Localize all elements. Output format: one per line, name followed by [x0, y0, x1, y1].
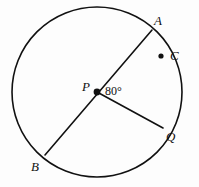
geometry-figure: A C P Q B 80°	[0, 0, 199, 187]
center-point-dot	[94, 89, 101, 96]
point-label-b: B	[31, 160, 39, 173]
point-label-q: Q	[166, 130, 175, 143]
point-label-p: P	[82, 80, 90, 93]
point-label-c: C	[170, 49, 179, 62]
angle-measure-label: 80°	[105, 85, 122, 97]
geometry-canvas	[0, 0, 199, 187]
point-label-a: A	[154, 14, 162, 27]
point-c-dot	[158, 53, 163, 58]
